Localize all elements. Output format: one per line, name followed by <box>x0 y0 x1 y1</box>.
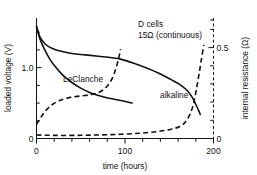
left-axis-tick-label-1: 1.0 <box>22 63 34 73</box>
annotation-alkaline-label: alkaline <box>160 90 189 100</box>
annotation-cell-type: D cells <box>138 19 163 29</box>
left-axis-tick-label-0: 0 <box>29 134 34 144</box>
bottom-axis-tick-label-1: 100 <box>118 146 133 156</box>
bottom-axis-tick-label-2: 200 <box>206 146 221 156</box>
bottom-axis-tick-label-0: 0 <box>34 146 39 156</box>
bottom-axis-title: time (hours) <box>103 161 148 171</box>
annotation-leclanche-label: LeClanche <box>63 74 103 84</box>
right-axis-tick-label-1: 0.5 <box>217 43 229 53</box>
series-group <box>37 27 204 136</box>
right-axis-tick-label-0: 0 <box>217 134 222 144</box>
left-axis-title: loaded voltage (V) <box>3 44 13 112</box>
annotation-load-condition: 15Ω (continuous) <box>138 30 202 40</box>
chart-canvas: 0 1.0 0 100 200 0 0.5 loaded voltage (V)… <box>0 0 257 175</box>
bottom-axis <box>37 139 214 144</box>
battery-discharge-chart: 0 1.0 0 100 200 0 0.5 loaded voltage (V)… <box>0 0 257 175</box>
right-axis <box>209 18 214 139</box>
right-axis-title: internal resistance (Ω) <box>240 37 250 119</box>
